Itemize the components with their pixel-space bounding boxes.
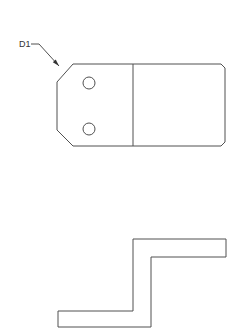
hole-circle	[83, 123, 95, 135]
callout-d1: D1	[19, 39, 59, 66]
drawing-canvas: D1	[0, 0, 245, 336]
profile-view-outline	[58, 239, 226, 327]
hole-circle	[83, 77, 95, 89]
top-view-outline	[57, 64, 225, 146]
top-view	[57, 64, 225, 146]
callout-label: D1	[19, 39, 31, 49]
profile-view	[58, 239, 226, 327]
